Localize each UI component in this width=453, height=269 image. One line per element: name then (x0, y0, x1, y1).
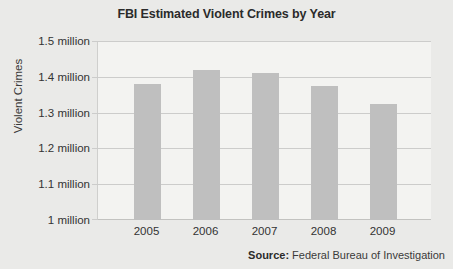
y-tick-label-1200000: 1.2 million (0, 142, 90, 154)
chart-title: FBI Estimated Violent Crimes by Year (0, 7, 453, 21)
y-tick-label-1500000: 1.5 million (0, 35, 90, 47)
y-tick-mark-1400000 (92, 77, 98, 78)
x-tick-label-2005: 2005 (117, 225, 177, 237)
y-tick-mark-1200000 (92, 148, 98, 149)
source-label: Source: (248, 249, 289, 261)
x-tick-label-2006: 2006 (176, 225, 236, 237)
bar-2006[interactable] (193, 70, 220, 220)
y-tick-mark-1100000 (92, 184, 98, 185)
y-tick-label-1100000: 1.1 million (0, 178, 90, 190)
bar-2008[interactable] (311, 86, 338, 220)
y-tick-label-1400000: 1.4 million (0, 71, 90, 83)
y-axis-tick-labels: 1.5 million 1.4 million 1.3 million 1.2 … (0, 41, 90, 220)
bar-2007[interactable] (252, 73, 279, 220)
x-tick-label-2007: 2007 (235, 225, 295, 237)
gridline-1500000 (98, 41, 431, 42)
plot-area (97, 41, 431, 220)
chart-figure: FBI Estimated Violent Crimes by Year Vio… (0, 0, 453, 269)
y-tick-label-1300000: 1.3 million (0, 107, 90, 119)
y-tick-mark-1300000 (92, 113, 98, 114)
source-note: Source: Federal Bureau of Investigation (248, 249, 445, 261)
source-text: Federal Bureau of Investigation (289, 249, 445, 261)
bar-2009[interactable] (370, 104, 397, 220)
x-tick-label-2008: 2008 (294, 225, 354, 237)
y-tick-mark-1000000 (92, 219, 98, 220)
x-axis-tick-labels: 2005 2006 2007 2008 2009 (97, 225, 430, 241)
y-tick-mark-1500000 (92, 41, 98, 42)
bar-2005[interactable] (134, 84, 161, 220)
y-tick-label-1000000: 1 million (0, 214, 90, 226)
x-tick-label-2009: 2009 (353, 225, 413, 237)
